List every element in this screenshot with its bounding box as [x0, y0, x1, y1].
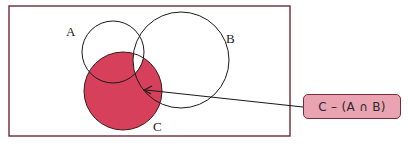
set-a-label: A	[66, 24, 76, 39]
set-b-label: B	[226, 31, 235, 46]
venn-diagram: A B C	[0, 0, 408, 146]
set-c-label: C	[153, 119, 162, 134]
callout-text: C – (A ∩ B)	[318, 100, 386, 114]
callout-box: C – (A ∩ B)	[303, 94, 401, 119]
